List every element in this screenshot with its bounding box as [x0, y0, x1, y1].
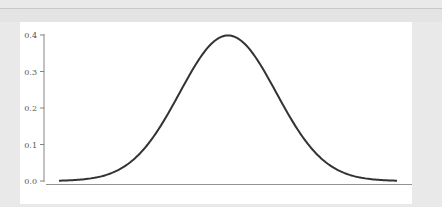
y-tick-label: 0.2 — [24, 104, 37, 113]
y-tick-label: 0.1 — [24, 141, 37, 150]
y-tick-label: 0.3 — [24, 68, 37, 77]
density-curve — [59, 35, 397, 180]
chart-svg: 0.00.10.20.30.4 — [0, 0, 442, 207]
y-tick-label: 0.4 — [24, 31, 37, 40]
y-ticks: 0.00.10.20.30.4 — [24, 31, 44, 186]
y-tick-label: 0.0 — [24, 177, 37, 186]
